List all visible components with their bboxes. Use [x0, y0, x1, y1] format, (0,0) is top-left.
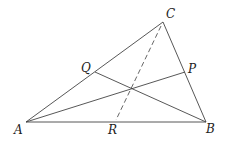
segment-AP	[26, 72, 185, 122]
label-A: A	[13, 123, 23, 137]
label-C: C	[166, 7, 175, 21]
label-P: P	[187, 62, 197, 76]
label-Q: Q	[81, 61, 91, 75]
triangle-diagram: A B C P Q R	[0, 0, 226, 144]
label-R: R	[107, 123, 117, 137]
segment-BQ	[95, 72, 206, 122]
segment-CA	[26, 22, 163, 122]
label-B: B	[205, 122, 215, 136]
